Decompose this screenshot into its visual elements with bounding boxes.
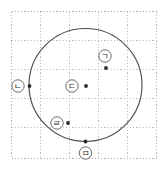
dotted-grid [12,12,157,159]
point-giyeok-label-text: ㄱ [101,51,109,61]
point-mieum-dot [84,140,88,144]
point-mieum: ㅁ [79,140,91,160]
point-rieul-dot [66,121,70,125]
point-nieun: ㄴ [12,80,32,92]
point-digeut: ㄷ [66,80,88,92]
point-nieun-label-text: ㄴ [14,81,22,91]
point-nieun-dot [28,84,32,88]
point-digeut-dot [84,84,88,88]
point-rieul-label-text: ㄹ [53,118,61,128]
point-giyeok-dot [104,66,108,70]
labeled-points-group: ㄱㄴㄷㄹㅁ [12,50,111,159]
geometry-diagram: ㄱㄴㄷㄹㅁ [0,0,168,179]
figure-canvas: ㄱㄴㄷㄹㅁ [0,0,168,179]
point-mieum-label-text: ㅁ [82,148,90,158]
point-digeut-label-text: ㄷ [68,81,76,91]
point-giyeok: ㄱ [99,50,111,70]
